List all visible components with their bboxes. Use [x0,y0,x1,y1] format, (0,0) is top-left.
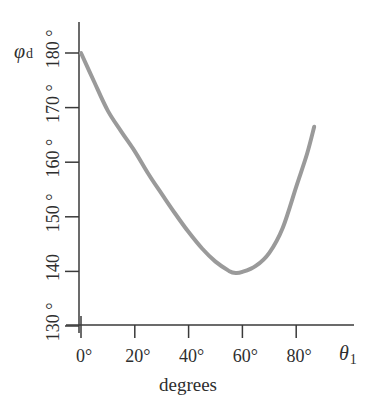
x-axis-symbol: θ1 [339,342,357,367]
x-tick-label: 60° [233,346,258,366]
data-curve [81,53,314,273]
x-ticks [81,316,296,338]
y-tick-label: 180 ° [43,30,63,69]
y-tick-labels: 130 °140150 °160 °170 °180 ° [43,30,63,342]
x-tick-labels: 0°20°40°60°80° [76,346,312,366]
y-tick-label: 170 ° [43,84,63,123]
y-ticks [65,53,79,326]
x-tick-label: 40° [179,346,204,366]
x-tick-label: 20° [125,346,150,366]
chart: 130 °140150 °160 °170 °180 ° φd 0°20°40°… [0,0,384,420]
y-tick-label: 140 [43,254,63,281]
x-axis-subscript: 1 [350,352,357,367]
x-tick-label: 80° [287,346,312,366]
y-tick-label: 160 ° [43,139,63,178]
x-tick-label: 0° [76,346,92,366]
x-axis-title: degrees [159,374,217,395]
x-axis: 0°20°40°60°80° θ1 degrees [66,316,357,395]
y-axis-symbol: φd [14,40,33,63]
y-axis: 130 °140150 °160 °170 °180 ° φd [14,22,79,341]
y-tick-label: 130 ° [43,303,63,342]
y-tick-label: 150 ° [43,193,63,232]
y-axis-subscript: d [26,46,33,61]
